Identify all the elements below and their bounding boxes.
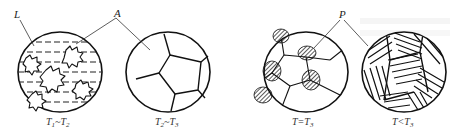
panel-4: T<T3	[344, 20, 446, 129]
caption-panel-4: T<T3	[392, 116, 414, 129]
pointer-line-A2	[116, 18, 150, 50]
pointer-line-A	[76, 18, 116, 44]
label-L: L	[13, 8, 20, 20]
microstructure-diagram: L A T1~T2 T2~T3	[0, 0, 454, 135]
caption-panel-2: T2~T3	[155, 116, 179, 129]
pointer-line-L	[20, 20, 34, 46]
panel-2: T2~T3	[116, 18, 210, 129]
panel-1: L A T1~T2	[13, 7, 121, 129]
label-A: A	[113, 7, 121, 19]
pearlite-circle	[362, 32, 446, 112]
panel-3: P T=T3	[254, 8, 348, 129]
caption-panel-3: T=T3	[292, 116, 314, 129]
austenite-grains-circle	[126, 32, 210, 112]
label-P: P	[338, 8, 346, 20]
caption-panel-1: T1~T2	[46, 116, 70, 129]
